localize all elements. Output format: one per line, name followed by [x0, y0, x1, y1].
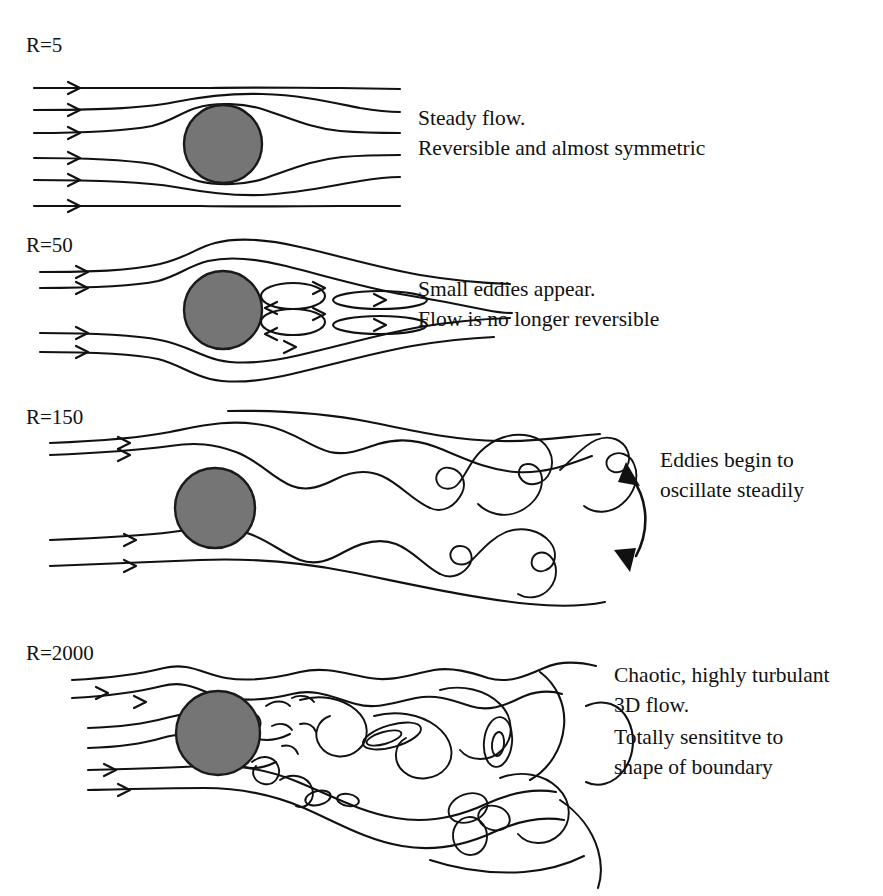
- caption-line: Steady flow.: [418, 106, 525, 130]
- arrow-marker: [96, 687, 108, 699]
- outer-turbulent-boundary: [430, 856, 584, 873]
- cylinder-obstacle: [184, 105, 262, 183]
- arrow-marker: [134, 696, 146, 708]
- streamlines-r2000: [72, 663, 633, 889]
- elongated-eddy: [333, 316, 427, 334]
- caption-line: 3D flow.: [614, 693, 689, 717]
- vortex-strand: [430, 435, 552, 515]
- oscillation-indicator-arrow: [614, 462, 645, 572]
- panel-label-r50: R=50: [26, 233, 73, 257]
- outer-streamline: [228, 411, 600, 441]
- eddy-arrow-marker: [374, 319, 386, 331]
- panel-r5: R=5 Steady flow. Reversible and almost s…: [26, 33, 705, 212]
- turbulent-fleck: [282, 745, 298, 754]
- streamline: [34, 88, 400, 89]
- streamline: [88, 788, 564, 848]
- flow-direction-arrows-r2000: [96, 687, 146, 796]
- cylinder-obstacle: [176, 691, 260, 775]
- caption-line: Small eddies appear.: [418, 277, 595, 301]
- reynolds-number-flow-figure: R=5 Steady flow. Reversible and almost s…: [0, 0, 883, 896]
- turbulent-fleck: [272, 724, 292, 730]
- cylinder-obstacle: [175, 468, 255, 548]
- caption-line: Chaotic, highly turbulant: [614, 663, 830, 687]
- caption-line: Flow is no longer reversible: [418, 307, 659, 331]
- caption-line: shape of boundary: [614, 755, 773, 779]
- caption-line: Totally sensititve to: [614, 725, 783, 749]
- arrow-head-down-icon: [614, 548, 636, 572]
- caption-line: Reversible and almost symmetric: [418, 136, 705, 160]
- cylinder-obstacle: [184, 271, 262, 349]
- eddy-arrow-marker: [374, 294, 386, 306]
- turbulent-strand: [500, 774, 569, 843]
- panel-label-r5: R=5: [26, 33, 62, 57]
- flow-direction-arrows-r150: [118, 437, 136, 572]
- outer-streamline: [72, 663, 596, 681]
- small-vortex: [304, 788, 333, 808]
- streamlines-r150: [50, 411, 636, 606]
- outer-turbulent-boundary: [560, 800, 601, 888]
- caption-line: Eddies begin to: [660, 448, 794, 472]
- turbulent-strand: [300, 697, 367, 756]
- panel-label-r2000: R=2000: [26, 641, 94, 665]
- vortex-cell: [481, 716, 514, 769]
- elongated-vortex: [360, 717, 424, 755]
- outer-turbulent-boundary: [530, 672, 564, 780]
- streamline: [50, 423, 592, 473]
- panel-r2000: R=2000: [26, 641, 830, 888]
- flow-direction-arrows-r5: [68, 82, 80, 212]
- vortex-strand: [440, 529, 556, 597]
- panel-r150: R=150 Eddies begin to oscillate steadily: [26, 405, 804, 606]
- panel-r50: R=50 Small eddies appe: [26, 233, 659, 381]
- elongated-eddy: [333, 291, 427, 309]
- streamline: [40, 337, 494, 381]
- arrow-marker: [284, 341, 296, 353]
- caption-line: oscillate steadily: [660, 478, 804, 502]
- turbulent-fleck: [266, 702, 290, 707]
- panel-label-r150: R=150: [26, 405, 83, 429]
- turbulent-fleck: [300, 723, 316, 732]
